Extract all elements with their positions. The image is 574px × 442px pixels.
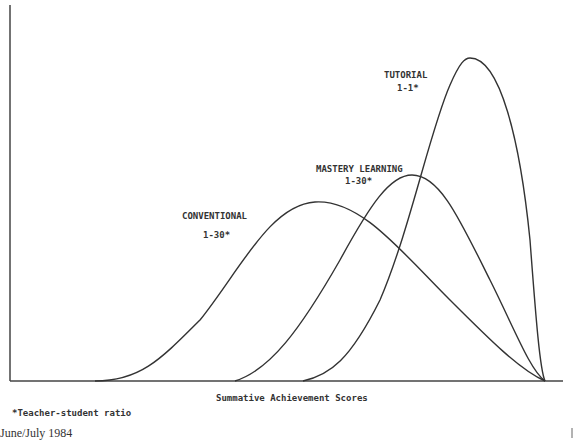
conventional-label: CONVENTIONAL xyxy=(182,211,248,221)
tutorial-label: TUTORIAL xyxy=(384,70,428,80)
distribution-chart: TUTORIAL 1-1* MASTERY LEARNING 1-30* CON… xyxy=(0,0,574,442)
footnote: *Teacher-student ratio xyxy=(12,408,131,418)
conventional-curve xyxy=(95,202,545,381)
tutorial-ratio: 1-1* xyxy=(397,83,419,93)
conventional-ratio: 1-30* xyxy=(203,230,230,240)
mastery-ratio: 1-30* xyxy=(345,176,372,186)
mastery-curve xyxy=(235,175,545,381)
mastery-label: MASTERY LEARNING xyxy=(316,164,403,174)
date-caption: June/July 1984 xyxy=(0,426,72,440)
x-axis-label: Summative Achievement Scores xyxy=(216,393,368,403)
tutorial-curve xyxy=(303,58,545,381)
